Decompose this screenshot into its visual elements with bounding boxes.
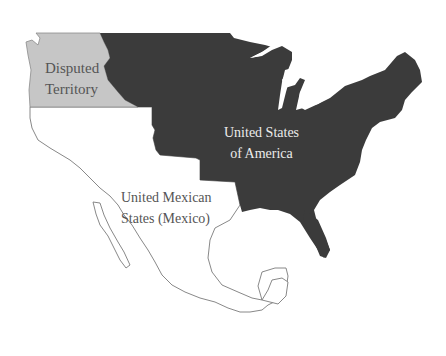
- label-mexico: United Mexican States (Mexico): [121, 187, 212, 229]
- label-line: Territory: [45, 79, 99, 100]
- label-line: of America: [224, 143, 299, 164]
- label-line: Disputed: [45, 58, 99, 79]
- florida: [303, 210, 330, 258]
- label-line: States (Mexico): [121, 208, 212, 229]
- label-line: United Mexican: [121, 187, 212, 208]
- label-line: United States: [224, 122, 299, 143]
- label-usa: United States of America: [224, 122, 299, 164]
- label-disputed-territory: Disputed Territory: [45, 58, 99, 100]
- map-canvas: [0, 0, 446, 356]
